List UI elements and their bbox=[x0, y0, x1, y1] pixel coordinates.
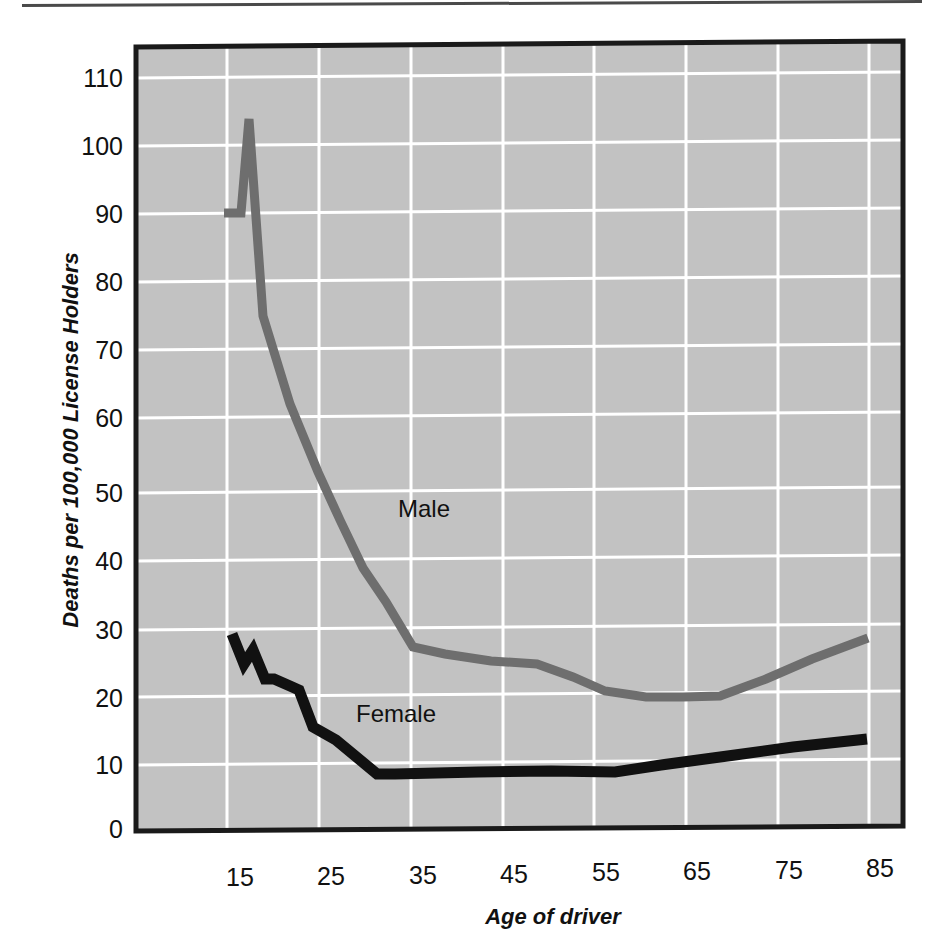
line-chart: 110 100 90 80 70 60 50 40 30 20 10 0 15 … bbox=[0, 0, 943, 938]
x-axis-title: Age of driver bbox=[484, 904, 622, 929]
series-label-male: Male bbox=[398, 495, 450, 522]
x-tick-65: 65 bbox=[683, 857, 711, 885]
y-tick-90: 90 bbox=[95, 200, 123, 228]
y-tick-10: 10 bbox=[95, 751, 123, 779]
series-label-female: Female bbox=[356, 700, 436, 727]
x-tick-55: 55 bbox=[592, 858, 620, 886]
y-tick-labels: 110 100 90 80 70 60 50 40 30 20 10 0 bbox=[81, 64, 123, 843]
y-tick-50: 50 bbox=[95, 479, 123, 507]
x-tick-25: 25 bbox=[317, 862, 345, 890]
y-tick-40: 40 bbox=[95, 547, 123, 575]
y-tick-70: 70 bbox=[95, 336, 123, 364]
y-tick-110: 110 bbox=[83, 64, 123, 92]
y-tick-20: 20 bbox=[95, 684, 123, 712]
x-tick-15: 15 bbox=[226, 863, 254, 891]
y-axis-title: Deaths per 100,000 License Holders bbox=[58, 252, 83, 627]
figure-container: 110 100 90 80 70 60 50 40 30 20 10 0 15 … bbox=[0, 0, 943, 938]
x-tick-labels: 15 25 35 45 55 65 75 85 bbox=[226, 854, 894, 891]
x-tick-75: 75 bbox=[775, 856, 803, 884]
y-tick-60: 60 bbox=[95, 404, 123, 432]
x-tick-45: 45 bbox=[500, 860, 528, 888]
y-tick-30: 30 bbox=[95, 616, 123, 644]
x-tick-35: 35 bbox=[409, 861, 437, 889]
x-tick-85: 85 bbox=[866, 854, 894, 882]
y-tick-0: 0 bbox=[109, 815, 123, 843]
y-tick-100: 100 bbox=[81, 132, 123, 160]
y-tick-80: 80 bbox=[95, 268, 123, 296]
